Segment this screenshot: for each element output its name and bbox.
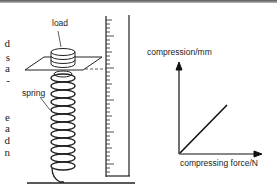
x-axis-arrow-icon	[254, 151, 262, 157]
x-axis-label: compressing force/N	[180, 158, 258, 168]
y-axis-arrow-icon	[176, 62, 182, 70]
spring-label: spring	[22, 88, 45, 98]
spring	[51, 71, 75, 182]
graph	[176, 62, 262, 157]
spring-leader	[40, 97, 50, 110]
load-label: load	[52, 18, 68, 28]
data-line	[180, 105, 227, 153]
load-leader	[58, 31, 61, 47]
ruler	[106, 15, 130, 177]
load-weights	[51, 49, 75, 68]
y-axis-label: compression/mm	[147, 47, 212, 57]
